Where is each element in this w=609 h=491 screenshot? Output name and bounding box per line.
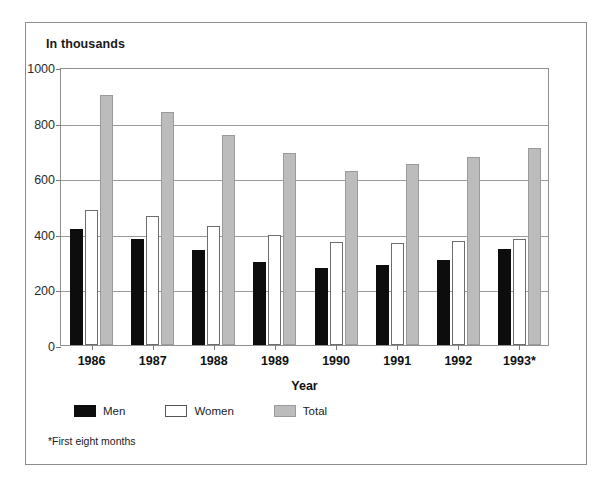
legend-label: Men xyxy=(103,405,125,417)
bar-women-1993 xyxy=(513,239,526,345)
bar-total-1993 xyxy=(528,148,541,345)
chart-frame: In thousands 02004006008001000 198619871… xyxy=(25,22,587,465)
chart-title: In thousands xyxy=(46,37,125,51)
x-tick-label: 1987 xyxy=(139,354,167,368)
x-tick-mark xyxy=(519,345,520,350)
y-tick-label: 400 xyxy=(34,229,55,243)
bar-men-1987 xyxy=(131,239,144,345)
bar-total-1988 xyxy=(222,135,235,345)
bar-group xyxy=(306,69,367,345)
legend-label: Total xyxy=(303,405,327,417)
y-tick-mark xyxy=(56,347,61,348)
x-tick-mark xyxy=(153,345,154,350)
bar-women-1992 xyxy=(452,241,465,345)
bar-total-1987 xyxy=(161,112,174,345)
bar-group xyxy=(428,69,489,345)
bar-men-1993 xyxy=(498,249,511,345)
x-tick-mark xyxy=(397,345,398,350)
bar-men-1991 xyxy=(376,265,389,345)
bar-women-1989 xyxy=(268,235,281,345)
y-tick-label: 800 xyxy=(34,118,55,132)
bar-women-1987 xyxy=(146,216,159,345)
bar-men-1988 xyxy=(192,250,205,345)
bar-men-1986 xyxy=(70,229,83,345)
bar-men-1989 xyxy=(253,262,266,345)
legend-swatch-men xyxy=(74,405,96,417)
y-tick-label: 0 xyxy=(48,340,55,354)
x-tick-label: 1988 xyxy=(200,354,228,368)
bar-women-1991 xyxy=(391,243,404,345)
y-tick-label: 200 xyxy=(34,284,55,298)
x-tick-mark xyxy=(92,345,93,350)
legend-swatch-total xyxy=(274,405,296,417)
bar-group xyxy=(244,69,305,345)
chart-footnote: *First eight months xyxy=(48,435,136,447)
x-tick-label: 1993* xyxy=(503,354,536,368)
bar-women-1990 xyxy=(330,242,343,345)
bar-group xyxy=(61,69,122,345)
y-tick-label: 1000 xyxy=(27,62,55,76)
legend-item-women: Women xyxy=(165,405,233,417)
x-tick-label: 1989 xyxy=(261,354,289,368)
bar-total-1986 xyxy=(100,95,113,345)
bar-series-container xyxy=(61,69,548,345)
bar-total-1992 xyxy=(467,157,480,345)
x-tick-label: 1992 xyxy=(444,354,472,368)
bar-total-1990 xyxy=(345,171,358,345)
x-tick-mark xyxy=(458,345,459,350)
bar-men-1992 xyxy=(437,260,450,345)
bar-women-1988 xyxy=(207,226,220,345)
bar-total-1989 xyxy=(283,153,296,345)
bar-men-1990 xyxy=(315,268,328,345)
bar-total-1991 xyxy=(406,164,419,345)
x-tick-label: 1986 xyxy=(78,354,106,368)
chart-legend: MenWomenTotal xyxy=(74,405,327,417)
bar-group xyxy=(367,69,428,345)
y-tick-label: 600 xyxy=(34,173,55,187)
legend-label: Women xyxy=(194,405,233,417)
bar-group xyxy=(183,69,244,345)
x-tick-label: 1990 xyxy=(322,354,350,368)
x-tick-label: 1991 xyxy=(383,354,411,368)
x-tick-mark xyxy=(214,345,215,350)
bar-group xyxy=(122,69,183,345)
legend-item-total: Total xyxy=(274,405,327,417)
x-tick-mark xyxy=(275,345,276,350)
bar-women-1986 xyxy=(85,210,98,345)
bar-group xyxy=(489,69,550,345)
legend-swatch-women xyxy=(165,405,187,417)
legend-item-men: Men xyxy=(74,405,125,417)
plot-area: 02004006008001000 1986198719881989199019… xyxy=(60,68,549,346)
x-axis-title: Year xyxy=(60,379,549,393)
x-tick-mark xyxy=(336,345,337,350)
